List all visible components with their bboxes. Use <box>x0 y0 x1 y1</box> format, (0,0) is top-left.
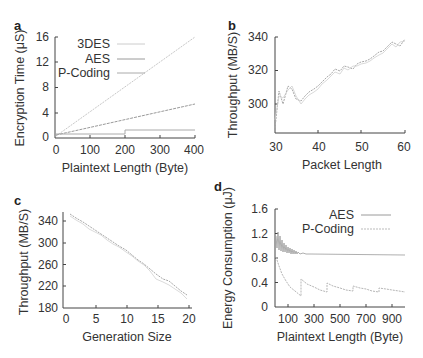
series-throughput-b <box>275 39 405 128</box>
panel-d: d 0 0.4 0.8 1.2 1.6 100 300 500 700 900 … <box>214 179 405 344</box>
figure: a 0 4 8 12 16 0 100 200 300 400 Pla <box>0 0 423 358</box>
svg-text:300: 300 <box>248 97 268 111</box>
y-axis-label-a: Encryption Time (μS) <box>13 30 27 147</box>
svg-text:700: 700 <box>356 312 376 326</box>
svg-text:20: 20 <box>182 312 196 326</box>
svg-text:40: 40 <box>312 140 326 154</box>
svg-text:P-Coding: P-Coding <box>302 222 354 236</box>
svg-text:50: 50 <box>355 140 369 154</box>
panel-b: b 300 320 340 30 40 50 60 Packet Length … <box>226 18 411 172</box>
panel-label-b: b <box>228 18 236 33</box>
panel-a: a 0 4 8 12 16 0 100 200 300 400 Pla <box>13 18 204 175</box>
svg-text:0.8: 0.8 <box>251 251 268 265</box>
svg-text:220: 220 <box>38 279 58 293</box>
svg-text:AES: AES <box>85 52 110 66</box>
legend-d: AES P-Coding <box>302 208 391 236</box>
y-axis-label-d: Energy Consumption (μJ) <box>221 187 235 329</box>
svg-text:300: 300 <box>38 236 58 250</box>
svg-text:8: 8 <box>42 80 49 94</box>
svg-text:10: 10 <box>120 312 134 326</box>
svg-text:1.2: 1.2 <box>251 227 268 241</box>
svg-text:3DES: 3DES <box>77 37 110 51</box>
x-ticks-b: 30 40 50 60 <box>269 130 411 154</box>
svg-text:260: 260 <box>38 258 58 272</box>
svg-text:30: 30 <box>269 140 283 154</box>
svg-text:340: 340 <box>248 30 268 44</box>
y-ticks-b: 300 320 340 <box>248 30 278 111</box>
svg-text:4: 4 <box>42 106 49 120</box>
svg-text:340: 340 <box>38 214 58 228</box>
svg-text:180: 180 <box>38 301 58 315</box>
series-p-coding-d <box>276 257 405 296</box>
series-3des <box>56 37 195 136</box>
y-axis-label-c: Throughput (MB/S) <box>17 209 31 315</box>
x-axis-label-a: Plaintext Length (Byte) <box>62 161 188 175</box>
x-axis-label-b: Packet Length <box>302 158 382 172</box>
y-ticks-d: 0 0.4 0.8 1.2 1.6 <box>251 202 278 314</box>
svg-text:300: 300 <box>150 143 170 157</box>
svg-text:500: 500 <box>330 312 350 326</box>
x-axis-label-c: Generation Size <box>82 330 172 344</box>
svg-text:0: 0 <box>63 312 70 326</box>
panel-label-c: c <box>14 193 21 208</box>
svg-text:0: 0 <box>42 130 49 144</box>
panel-c: c 180 220 260 300 340 0 5 10 15 20 Gener… <box>14 193 196 344</box>
svg-text:0: 0 <box>53 143 60 157</box>
svg-text:0.4: 0.4 <box>251 276 268 290</box>
svg-text:300: 300 <box>304 312 324 326</box>
svg-text:AES: AES <box>329 208 354 222</box>
svg-text:100: 100 <box>80 143 100 157</box>
svg-text:15: 15 <box>151 312 165 326</box>
svg-text:1.6: 1.6 <box>251 202 268 216</box>
svg-text:100: 100 <box>278 312 298 326</box>
svg-text:16: 16 <box>36 30 50 44</box>
y-ticks-c: 180 220 260 300 340 <box>38 214 66 315</box>
legend-a: 3DES AES P-Coding <box>58 37 145 80</box>
svg-text:400: 400 <box>184 143 204 157</box>
svg-text:60: 60 <box>397 140 411 154</box>
svg-text:320: 320 <box>248 63 268 77</box>
svg-text:200: 200 <box>115 143 135 157</box>
series-throughput-c <box>70 214 187 295</box>
series-throughput-c-errors <box>70 216 187 299</box>
series-throughput-b-errors <box>275 41 405 120</box>
x-axis-label-d: Plaintext Length (Byte) <box>277 330 403 344</box>
svg-text:0: 0 <box>261 300 268 314</box>
y-axis-label-b: Throughput (MB/S) <box>226 32 240 138</box>
svg-text:5: 5 <box>93 312 100 326</box>
svg-text:P-Coding: P-Coding <box>58 66 110 80</box>
svg-text:12: 12 <box>36 55 50 69</box>
svg-text:900: 900 <box>382 312 402 326</box>
